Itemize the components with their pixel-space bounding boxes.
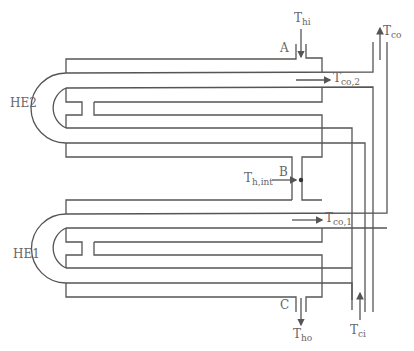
heat-exchanger-diagram: HE2 HE1 A B C T hi T co T co,2 T h,int T… [0, 0, 414, 351]
svg-text:T: T [350, 323, 358, 337]
svg-text:T: T [294, 11, 302, 25]
point-b-label: B [279, 165, 288, 179]
point-a-label: A [279, 41, 289, 55]
svg-text:ci: ci [358, 329, 366, 339]
t-hint-label: T h,int [244, 171, 273, 187]
svg-text:co,1: co,1 [333, 217, 352, 227]
t-hi-label: T hi [294, 11, 311, 27]
svg-text:hi: hi [302, 17, 311, 27]
t-co2-label: T co,2 [333, 71, 360, 87]
point-b-dot [299, 178, 303, 182]
t-ho-label: T ho [293, 327, 312, 343]
svg-text:T: T [383, 24, 391, 38]
svg-text:co: co [391, 30, 401, 40]
svg-text:T: T [333, 71, 341, 85]
point-c-label: C [280, 298, 289, 312]
svg-text:h,int: h,int [252, 177, 273, 187]
svg-text:T: T [244, 171, 252, 185]
t-ci-label: T ci [350, 323, 366, 339]
t-co-label: T co [383, 24, 401, 40]
he1-label: HE1 [13, 247, 40, 261]
he2-label: HE2 [10, 96, 37, 110]
svg-text:co,2: co,2 [341, 77, 360, 87]
svg-text:T: T [293, 327, 301, 341]
svg-text:T: T [325, 211, 333, 225]
svg-text:ho: ho [301, 333, 312, 343]
